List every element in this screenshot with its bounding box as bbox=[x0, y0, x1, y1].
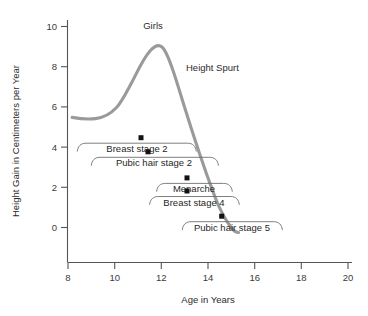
median-marker-pubic-hair-stage-2 bbox=[146, 149, 151, 154]
median-marker-menarche bbox=[185, 175, 190, 180]
y-tick-label-0: 0 bbox=[52, 222, 57, 233]
median-marker-breast-stage-4 bbox=[185, 189, 190, 194]
y-axis-title: Height Gain in Centimeters per Year bbox=[10, 65, 21, 217]
x-tick-label-14: 14 bbox=[203, 272, 214, 283]
y-tick-label-10: 10 bbox=[46, 21, 57, 32]
x-tick-label-20: 20 bbox=[343, 272, 354, 283]
x-tick-label-18: 18 bbox=[296, 272, 307, 283]
x-tick-label-12: 12 bbox=[156, 272, 167, 283]
bracket-label-pubic-hair-stage-2: Pubic hair stage 2 bbox=[116, 157, 192, 168]
x-tick-label-16: 16 bbox=[249, 272, 260, 283]
chart-title-girls: Girls bbox=[143, 20, 163, 31]
median-marker-breast-stage-2 bbox=[139, 135, 144, 140]
y-tick-label-8: 8 bbox=[52, 61, 57, 72]
height-velocity-chart: 10 8 6 4 2 0 8 10 12 14 16 18 bbox=[0, 0, 368, 316]
median-marker-pubic-hair-stage-5 bbox=[219, 214, 224, 219]
chart-figure: 10 8 6 4 2 0 8 10 12 14 16 18 bbox=[0, 0, 368, 316]
y-tick-label-6: 6 bbox=[52, 101, 57, 112]
bracket-label-breast-stage-2: Breast stage 2 bbox=[106, 143, 167, 154]
x-tick-label-10: 10 bbox=[109, 272, 120, 283]
y-tick-label-4: 4 bbox=[52, 142, 57, 153]
annotation-height-spurt: Height Spurt bbox=[186, 62, 239, 73]
bracket-label-pubic-hair-stage-5: Pubic hair stage 5 bbox=[194, 222, 270, 233]
x-axis-title: Age in Years bbox=[181, 294, 235, 305]
x-tick-label-8: 8 bbox=[65, 272, 70, 283]
bracket-label-breast-stage-4: Breast stage 4 bbox=[163, 197, 224, 208]
y-tick-label-2: 2 bbox=[52, 182, 57, 193]
bracket-label-menarche: Menarche bbox=[173, 183, 215, 194]
